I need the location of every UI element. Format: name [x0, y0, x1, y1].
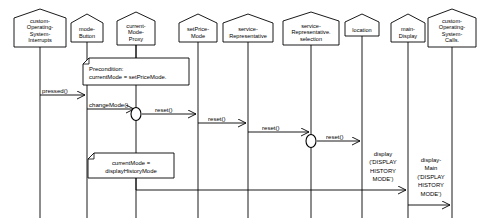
note-currentmode-box	[88, 153, 174, 178]
message-reset2[interactable]: reset()	[198, 115, 246, 124]
object-header-modeproxy[interactable]: current- Mode- Proxy	[117, 12, 155, 45]
object-label-cosc-line1: Operating-	[439, 24, 466, 30]
message-changemode-label: changeMode()	[89, 101, 128, 108]
note-currentmode-line1: displayHistoryMode	[105, 168, 157, 174]
object-header-servicerep[interactable]: service- Representative	[223, 14, 273, 42]
sequence-diagram-canvas: custom- Operating- System- Interrupts mo…	[0, 0, 477, 220]
object-header-setprice[interactable]: setPrice- Mode	[179, 14, 217, 42]
message-reset1-label: reset()	[155, 106, 173, 113]
object-label-modebutton-line1: Button	[79, 33, 95, 39]
note-precondition-line0: Precondition:	[89, 66, 124, 72]
object-label-modeproxy-line0: current-	[126, 23, 145, 29]
object-header-maindisplay[interactable]: main- Display	[391, 14, 425, 42]
note-precondition-fold-icon	[83, 58, 89, 64]
object-label-modeproxy-line2: Proxy	[129, 36, 144, 42]
message-pressed-label: pressed()	[42, 87, 68, 94]
occurrence-mark-servicesel	[306, 135, 316, 148]
object-label-setprice-line0: setPrice-	[187, 26, 209, 32]
note-currentmode[interactable]: currentMode = displayHistoryMode	[88, 153, 174, 190]
message-display-label-line1: ('DISPLAY	[369, 159, 397, 165]
message-reset4[interactable]: reset()	[317, 133, 360, 142]
object-header-cosi[interactable]: custom- Operating- System- Interrupts	[14, 9, 66, 47]
object-label-maindisplay-line1: Display	[399, 33, 418, 39]
object-shape-location	[345, 14, 379, 36]
object-label-modebutton-line0: mode-	[79, 26, 95, 32]
message-reset1[interactable]: reset()	[142, 106, 196, 115]
message-displaymain[interactable]: display- Main ('DISPLAY HISTORY MODE')	[408, 157, 450, 206]
object-label-servicesel-line2: selection	[300, 36, 322, 42]
object-label-location-line0: location	[352, 27, 371, 33]
activation-marks-group	[131, 108, 316, 148]
object-header-servicesel[interactable]: service- Representative. selection	[283, 12, 339, 45]
message-display[interactable]: display ('DISPLAY HISTORY MODE')	[136, 151, 406, 191]
object-label-servicesel-line0: service-	[301, 23, 321, 29]
message-pressed[interactable]: pressed()	[40, 87, 85, 96]
object-label-cosc-line0: custom-	[442, 18, 462, 24]
message-reset3-label: reset()	[262, 124, 280, 131]
object-label-modeproxy-line1: Mode-	[128, 29, 144, 35]
message-reset4-label: reset()	[326, 133, 344, 140]
object-label-servicesel-line1: Representative.	[291, 29, 331, 35]
message-displaymain-label-line4: MODE')	[421, 191, 442, 197]
message-reset3[interactable]: reset()	[248, 124, 309, 133]
occurrence-mark-modeproxy	[131, 108, 141, 121]
message-display-label-line2: HISTORY	[370, 168, 396, 174]
message-display-label-line0: display	[374, 151, 392, 157]
object-label-cosi-line0: custom-	[30, 18, 50, 24]
object-label-servicerep-line0: service-	[238, 26, 258, 32]
message-reset2-label: reset()	[208, 115, 226, 122]
object-label-setprice-line1: Mode	[191, 33, 205, 39]
object-label-cosc-line3: Calls.	[445, 37, 459, 43]
object-headers-group: custom- Operating- System- Interrupts mo…	[14, 9, 476, 47]
diagram-svg: custom- Operating- System- Interrupts mo…	[0, 0, 477, 220]
messages-group: pressed() changeMode() reset() reset() r…	[40, 87, 360, 142]
message-display-label-line3: MODE')	[373, 176, 394, 182]
message-displaymain-label-line2: ('DISPLAY	[417, 174, 445, 180]
message-displaymain-label-line1: Main	[425, 165, 438, 171]
object-label-servicerep-line1: Representative	[229, 33, 267, 39]
message-displaymain-label-line0: display-	[421, 157, 441, 163]
object-header-cosc[interactable]: custom- Operating- System- Calls.	[428, 9, 476, 47]
object-label-cosi-line1: Operating-	[27, 24, 54, 30]
note-currentmode-line0: currentMode =	[112, 160, 151, 166]
object-label-cosi-line2: System-	[30, 31, 51, 37]
note-precondition[interactable]: Precondition: currentMode = setPriceMode…	[83, 45, 189, 85]
object-header-location[interactable]: location	[345, 14, 379, 36]
note-precondition-line1: currentMode = setPriceMode.	[89, 74, 167, 80]
object-label-cosc-line2: System-	[442, 31, 463, 37]
message-changemode[interactable]: changeMode()	[87, 101, 134, 110]
note-currentmode-fold-icon	[88, 153, 94, 159]
object-label-maindisplay-line0: main-	[401, 26, 415, 32]
object-header-modebutton[interactable]: mode- Button	[71, 14, 103, 42]
message-displaymain-label-line3: HISTORY	[418, 182, 444, 188]
object-label-cosi-line3: Interrupts	[28, 37, 52, 43]
note-precondition-box	[83, 58, 189, 85]
